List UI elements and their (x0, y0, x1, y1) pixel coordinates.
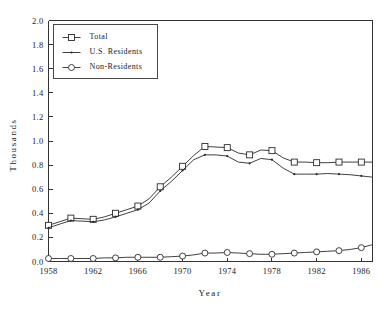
marker-circle (247, 251, 253, 257)
marker-dot (70, 51, 72, 53)
legend-item-label: U.S. Residents (90, 47, 143, 56)
marker-dot (249, 162, 251, 164)
marker-dot (338, 173, 340, 175)
marker-square (314, 160, 320, 166)
series-total (46, 143, 373, 228)
y-tick-label: 0.2 (32, 232, 44, 242)
marker-circle (224, 249, 230, 255)
chart-legend: TotalU.S. ResidentsNon-Residents (54, 25, 158, 79)
marker-dot (204, 154, 206, 156)
marker-dot (360, 175, 362, 177)
marker-dot (47, 227, 49, 229)
y-tick-label: 1.2 (32, 112, 44, 122)
marker-circle (135, 254, 141, 260)
marker-dot (137, 209, 139, 211)
marker-circle (202, 250, 208, 256)
marker-dot (226, 155, 228, 157)
y-tick-label: 0.6 (32, 184, 44, 194)
marker-circle (314, 249, 320, 255)
y-tick-label: 1.4 (32, 88, 44, 98)
data-series-group (46, 143, 373, 261)
marker-square (69, 35, 75, 41)
marker-square (291, 159, 297, 165)
marker-dot (293, 173, 295, 175)
marker-circle (69, 65, 75, 71)
marker-circle (157, 254, 163, 260)
marker-square (336, 159, 342, 165)
x-tick-label: 1982 (308, 266, 326, 276)
x-tick-label: 1966 (129, 266, 147, 276)
marker-circle (180, 253, 186, 259)
marker-circle (46, 255, 52, 261)
y-tick-label: 0.8 (32, 160, 44, 170)
line-chart: 0.00.20.40.60.81.01.21.41.61.82.0 195819… (0, 0, 390, 309)
y-tick-label: 0.4 (32, 208, 44, 218)
x-axis-title: Year (199, 288, 222, 298)
y-axis-title: Thousands (8, 118, 18, 171)
marker-circle (68, 255, 74, 261)
marker-dot (159, 190, 161, 192)
marker-dot (271, 159, 273, 161)
marker-circle (291, 250, 297, 256)
x-tick-label: 1958 (39, 266, 57, 276)
y-tick-label: 2.0 (32, 16, 44, 26)
marker-circle (336, 248, 342, 254)
x-tick-label: 1978 (263, 266, 281, 276)
y-axis-ticks: 0.00.20.40.60.81.01.21.41.61.82.0 (32, 16, 53, 267)
x-axis-ticks: 19581962196619701974197819821986 (39, 258, 370, 276)
marker-circle (358, 245, 364, 251)
x-tick-label: 1970 (173, 266, 191, 276)
legend-item-label: Total (90, 32, 109, 41)
marker-square (269, 148, 275, 154)
marker-circle (269, 251, 275, 257)
marker-dot (316, 173, 318, 175)
marker-dot (181, 169, 183, 171)
marker-square (113, 210, 119, 216)
y-tick-label: 1.8 (32, 40, 44, 50)
series-non-residents (46, 245, 373, 262)
marker-dot (70, 219, 72, 221)
marker-circle (90, 255, 96, 261)
y-tick-label: 1.6 (32, 64, 44, 74)
marker-dot (114, 216, 116, 218)
marker-square (358, 159, 364, 165)
y-tick-label: 1.0 (32, 136, 44, 146)
x-tick-label: 1974 (218, 266, 237, 276)
marker-square (202, 143, 208, 149)
marker-dot (92, 221, 94, 223)
marker-square (224, 145, 230, 151)
x-tick-label: 1986 (352, 266, 370, 276)
x-tick-label: 1962 (84, 266, 102, 276)
marker-circle (113, 255, 119, 261)
marker-square (247, 152, 253, 158)
chart-container: 0.00.20.40.60.81.01.21.41.61.82.0 195819… (0, 0, 390, 309)
legend-item-label: Non-Residents (90, 62, 143, 71)
